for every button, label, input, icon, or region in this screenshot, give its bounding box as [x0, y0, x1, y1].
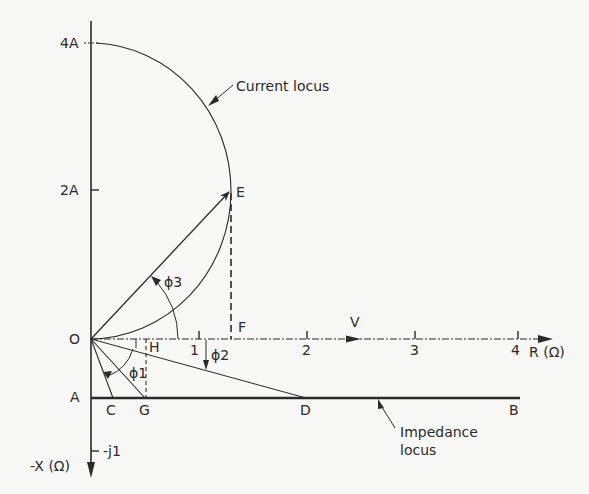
impedance-locus-label-2: locus — [400, 442, 436, 458]
phi3-label: ϕ3 — [164, 274, 182, 290]
origin-label: O — [69, 331, 80, 347]
phi2-label: ϕ2 — [211, 347, 229, 363]
x-axis-label: -X (Ω) — [30, 458, 70, 474]
tick-label-4a: 4A — [60, 35, 79, 51]
r-tick-3: 3 — [410, 342, 419, 358]
r-tick-4: 4 — [511, 342, 520, 358]
r-tick-1: 1 — [190, 342, 199, 358]
point-e-label: E — [236, 184, 245, 200]
line-oc — [91, 339, 113, 398]
impedance-locus-pointer-icon — [378, 399, 384, 409]
impedance-locus-label-1: Impedance — [400, 424, 478, 440]
current-locus-label: Current locus — [236, 78, 329, 94]
point-h-label: H — [149, 339, 160, 355]
tick-label-2a: 2A — [60, 182, 79, 198]
phi1-label: ϕ1 — [129, 365, 147, 381]
right-arrow-icon — [538, 335, 553, 343]
circle-diagram: 4A 2A O A C G D B E F H 1 2 3 4 R (Ω) V … — [0, 0, 589, 494]
r-tick-2: 2 — [302, 342, 311, 358]
point-f-label: F — [238, 319, 246, 335]
vertical-axis — [84, 21, 99, 478]
point-a-label: A — [70, 389, 80, 405]
r-axis-label: R (Ω) — [529, 344, 565, 360]
down-arrow-icon — [87, 462, 95, 478]
reactance-tick-label: -j1 — [103, 443, 121, 459]
r-axis — [91, 331, 553, 343]
current-phasor-oe — [91, 192, 229, 339]
point-g-label: G — [139, 402, 150, 418]
point-c-label: C — [106, 402, 116, 418]
point-d-label: D — [300, 402, 311, 418]
voltage-label: V — [350, 314, 360, 330]
current-locus-arc — [91, 43, 231, 339]
phi2-arrow-icon — [203, 360, 209, 370]
voltage-arrow-icon — [346, 336, 361, 343]
current-locus-pointer-icon — [208, 95, 219, 106]
point-b-label: B — [509, 402, 519, 418]
